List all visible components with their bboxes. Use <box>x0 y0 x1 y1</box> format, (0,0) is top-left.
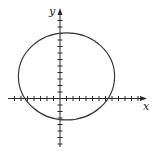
x-axis-label: x <box>143 100 150 113</box>
coordinate-plane: x y <box>0 0 153 160</box>
y-axis-arrowhead <box>58 8 63 15</box>
ellipse-curve <box>18 33 114 120</box>
y-axis-label: y <box>48 5 56 18</box>
axis-ticks <box>15 21 139 145</box>
